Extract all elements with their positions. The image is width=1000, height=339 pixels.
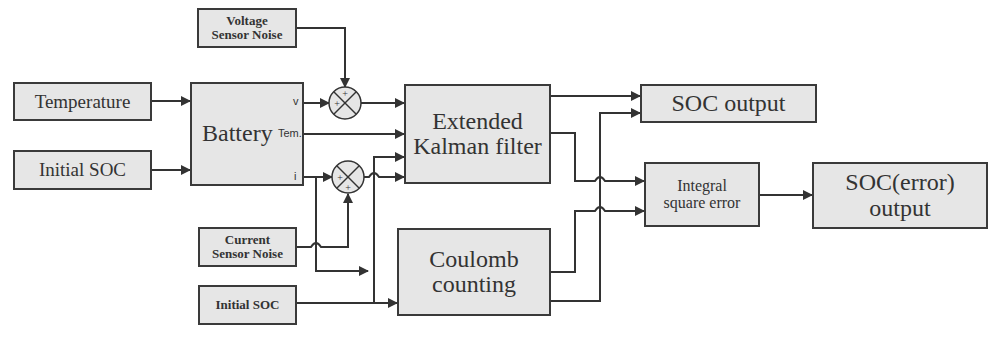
svg-text:+: +: [345, 182, 351, 193]
battery-port-tem: Tem.: [278, 127, 302, 139]
voltage-noise-line2: Sensor Noise: [212, 28, 283, 42]
svg-text:+: +: [337, 172, 343, 183]
soc-error-line2: output: [869, 196, 930, 221]
initial-soc-block-top: Initial SOC: [13, 150, 152, 190]
voltage-noise-line1: Voltage: [226, 14, 267, 28]
ekf-line1: Extended: [432, 109, 523, 134]
ise-line2: square error: [664, 195, 741, 212]
coulomb-line1: Coulomb: [429, 247, 518, 272]
ise-line1: Integral: [677, 178, 727, 195]
initial-soc-label-bottom: Initial SOC: [216, 298, 280, 312]
initial-soc-block-bottom: Initial SOC: [198, 285, 297, 325]
temperature-block: Temperature: [13, 82, 152, 121]
soc-error-line1: SOC(error): [845, 170, 954, 195]
soc-error-output-block: SOC(error) output: [812, 162, 988, 229]
battery-port-i: i: [294, 170, 296, 182]
current-sensor-noise-block: Current Sensor Noise: [198, 227, 297, 267]
battery-port-v: v: [293, 95, 299, 107]
sum-current-icon: + +: [332, 161, 364, 193]
current-noise-line2: Sensor Noise: [212, 247, 283, 261]
temperature-label: Temperature: [35, 92, 131, 112]
coulomb-counting-block: Coulomb counting: [397, 228, 551, 316]
initial-soc-label-top: Initial SOC: [39, 160, 126, 180]
integral-square-error-block: Integral square error: [644, 162, 760, 227]
ekf-line2: Kalman filter: [413, 134, 542, 159]
coulomb-line2: counting: [432, 272, 516, 297]
ekf-block: Extended Kalman filter: [404, 84, 551, 184]
soc-output-block: SOC output: [640, 84, 817, 123]
battery-label: Battery: [202, 121, 273, 146]
sum-voltage-icon: + +: [329, 87, 361, 119]
svg-text:+: +: [342, 88, 348, 99]
svg-text:+: +: [334, 98, 340, 109]
soc-output-label: SOC output: [671, 91, 785, 116]
current-noise-line1: Current: [225, 233, 270, 247]
voltage-sensor-noise-block: Voltage Sensor Noise: [197, 8, 297, 48]
